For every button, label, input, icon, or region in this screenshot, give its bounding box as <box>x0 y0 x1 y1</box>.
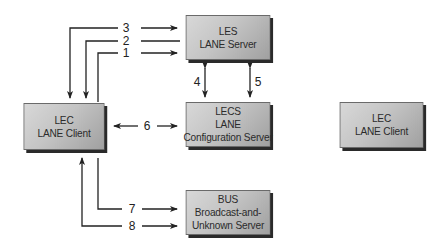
node-lec-left-line-1: LEC <box>54 114 73 127</box>
node-bus: BUS Broadcast-and- Unknown Server <box>186 190 271 235</box>
node-lecs-line-2: LANE <box>215 118 241 131</box>
node-bus-line-2: Broadcast-and- <box>195 206 262 219</box>
connection-label-1: 1 <box>123 46 130 60</box>
node-lecs: LECS LANE Configuration Server <box>186 102 271 147</box>
connection-label-8: 8 <box>129 219 136 233</box>
node-les-line-1: LES <box>219 25 238 38</box>
node-lecs-line-3: Configuration Server <box>183 131 272 144</box>
connection-2-left <box>86 41 118 98</box>
connection-7-left <box>98 158 122 209</box>
node-les: LES LANE Server <box>186 15 271 60</box>
node-bus-line-3: Unknown Server <box>192 219 264 232</box>
node-lec-right-line-1: LEC <box>372 112 391 125</box>
node-les-line-2: LANE Server <box>199 38 256 51</box>
node-lec-left: LEC LANE Client <box>24 103 105 150</box>
connection-label-6: 6 <box>144 119 151 133</box>
node-lecs-line-1: LECS <box>215 105 241 118</box>
node-lec-right-line-2: LANE Client <box>355 125 408 138</box>
connection-1-left <box>98 53 118 102</box>
node-lec-left-line-2: LANE Client <box>37 127 90 140</box>
connection-label-7: 7 <box>129 202 136 216</box>
node-lec-right: LEC LANE Client <box>340 102 424 148</box>
connection-3-left <box>70 28 118 98</box>
node-bus-line-1: BUS <box>218 193 238 206</box>
connection-label-3: 3 <box>123 21 130 35</box>
connection-label-5: 5 <box>255 75 262 89</box>
connection-8-left <box>82 158 122 226</box>
connection-label-4: 4 <box>194 75 201 89</box>
